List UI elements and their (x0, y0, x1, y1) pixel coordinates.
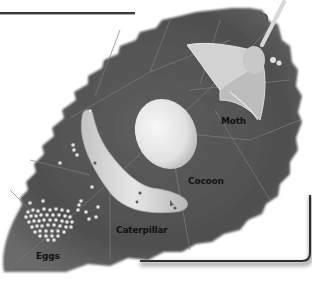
label-eggs: Eggs (36, 251, 60, 261)
label-cocoon: Cocoon (188, 176, 224, 186)
label-caterpillar: Caterpillar (116, 225, 168, 235)
figure-illustration (0, 0, 312, 282)
silkworm-life-cycle-figure: Moth Cocoon Caterpillar Eggs (0, 0, 312, 282)
label-moth: Moth (221, 116, 246, 126)
